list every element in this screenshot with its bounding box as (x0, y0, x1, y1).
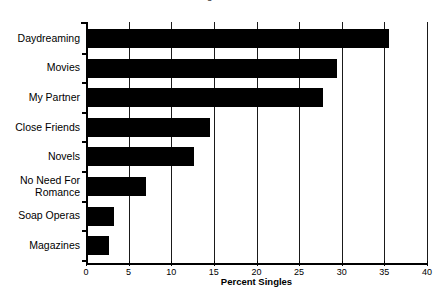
bar-row (86, 29, 427, 48)
category-label-novels: Novels (0, 151, 80, 163)
y-axis-tick-top (81, 22, 88, 24)
bar-chart-figure: Figure 10.1 DaydreamingMoviesMy PartnerC… (0, 0, 447, 292)
y-axis-tick (82, 53, 88, 55)
bar-daydreaming (86, 29, 389, 48)
x-tick-mark-40 (427, 261, 428, 266)
category-label-soap-operas: Soap Operas (0, 210, 80, 222)
x-tick-mark-10 (171, 261, 172, 266)
x-tick-mark-30 (342, 261, 343, 266)
x-tick-mark-5 (129, 261, 130, 266)
bar-close-friends (86, 118, 210, 137)
category-axis-labels: DaydreamingMoviesMy PartnerClose Friends… (0, 22, 80, 265)
y-axis-tick (82, 201, 88, 203)
y-axis-tick (82, 82, 88, 84)
y-axis-tick (82, 260, 88, 262)
category-label-magazines: Magazines (0, 240, 80, 252)
x-axis-title: Percent Singles (86, 276, 427, 287)
x-tick-mark-0 (86, 261, 87, 266)
chart-title: Figure 10.1 (0, 0, 447, 2)
category-label-daydreaming: Daydreaming (0, 33, 80, 45)
bar-novels (86, 147, 194, 166)
bar-my-partner (86, 88, 323, 107)
plot-area (86, 22, 427, 265)
bar-row (86, 177, 427, 196)
category-label-my-partner: My Partner (0, 92, 80, 104)
x-tick-mark-15 (214, 261, 215, 266)
bar-no-need-for-romance (86, 177, 146, 196)
y-axis-tick (82, 141, 88, 143)
bar-soap-operas (86, 207, 114, 226)
category-label-movies: Movies (0, 62, 80, 74)
x-tick-mark-35 (384, 261, 385, 266)
y-axis-tick (82, 171, 88, 173)
bar-row (86, 59, 427, 78)
x-tick-mark-20 (257, 261, 258, 266)
category-label-no-need-for-romance: No Need For Romance (0, 175, 80, 198)
y-axis-tick (82, 112, 88, 114)
bar-row (86, 118, 427, 137)
bar-row (86, 88, 427, 107)
bar-movies (86, 59, 337, 78)
bar-row (86, 147, 427, 166)
bar-row (86, 207, 427, 226)
bar-magazines (86, 236, 109, 255)
x-tick-mark-25 (299, 261, 300, 266)
bar-row (86, 236, 427, 255)
y-axis-tick (82, 230, 88, 232)
gridline-40 (427, 22, 428, 265)
category-label-close-friends: Close Friends (0, 122, 80, 134)
